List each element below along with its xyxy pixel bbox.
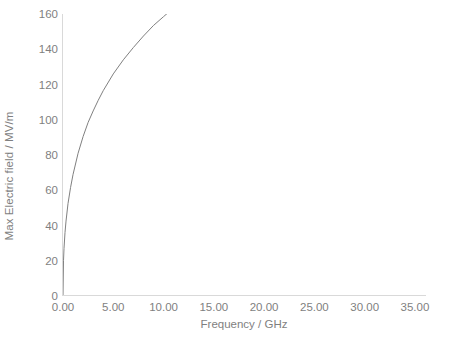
x-axis-line (62, 295, 426, 296)
y-axis-tick-label: 80 (24, 149, 58, 161)
y-axis-tick-label: 60 (24, 184, 58, 196)
x-axis-tick-label: 35.00 (385, 300, 445, 314)
y-axis-tick-label: 120 (24, 79, 58, 91)
y-axis-tick-label: 40 (24, 220, 58, 232)
y-axis-tick-labels: 020406080100120140160 (24, 14, 58, 296)
y-axis-title: Max Electric field / MV/m (0, 0, 18, 352)
y-axis-tick-label: 140 (24, 43, 58, 55)
x-axis-tick-labels: 0.005.0010.0015.0020.0025.0030.0035.00 (63, 300, 425, 316)
chart-container: Max Electric field / MV/m 02040608010012… (0, 0, 457, 352)
y-axis-tick-label: 20 (24, 255, 58, 267)
series-line-max-electric-field (63, 14, 425, 296)
y-axis-tick-label: 160 (24, 8, 58, 20)
x-axis-title: Frequency / GHz (63, 318, 425, 330)
y-axis-tick-label: 100 (24, 114, 58, 126)
plot-area (63, 14, 425, 296)
